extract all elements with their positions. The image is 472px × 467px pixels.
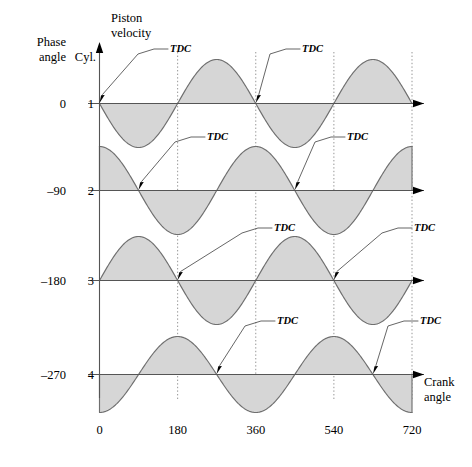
tdc-arrow-head — [256, 95, 261, 103]
tdc-leader-line — [181, 228, 272, 272]
tdc-arrow-head — [295, 182, 300, 190]
tdc-label: TDC — [347, 131, 369, 142]
tdc-arrow-head — [217, 366, 222, 374]
tdc-label: TDC — [170, 43, 192, 54]
cylinder-number-4: 4 — [88, 368, 95, 382]
tdc-arrow-head — [334, 272, 339, 280]
tdc-label: TDC — [302, 43, 324, 54]
x-tick-labels: 0180360540720 — [96, 423, 421, 437]
x-tick-label-180: 180 — [168, 423, 187, 437]
tdc-arrow-head — [139, 182, 144, 190]
cylinder-number-2: 2 — [88, 184, 94, 198]
tdc-arrow-head — [373, 366, 378, 374]
tdc-leader-line — [103, 49, 169, 95]
x-axis-title-line2: angle — [424, 390, 452, 404]
tdc-label: TDC — [420, 315, 442, 326]
phase-angle-header-line2: angle — [39, 50, 67, 64]
x-axis-arrow — [413, 371, 424, 378]
baseline-arrow-cyl-1 — [413, 100, 424, 107]
tdc-arrow-head — [178, 272, 183, 280]
phase-angle-value-cyl-4: –270 — [40, 368, 66, 382]
phase-angle-header-line1: Phase — [37, 35, 67, 49]
cylinder-number-3: 3 — [88, 274, 94, 288]
row-labels: 01–902–1803–2704 — [40, 97, 95, 382]
piston-velocity-diagram: Piston velocity Phase angle Cyl. Crank a… — [0, 0, 472, 467]
phase-angle-value-cyl-2: –90 — [46, 184, 66, 198]
x-tick-label-720: 720 — [403, 423, 422, 437]
tdc-leader-line — [259, 49, 300, 95]
y-axis-title-line1: Piston — [111, 11, 143, 25]
phase-angle-value-cyl-3: –180 — [40, 274, 66, 288]
baseline-arrow-cyl-2 — [413, 187, 424, 194]
tdc-leader-line — [337, 228, 412, 272]
y-axis-title-line2: velocity — [111, 26, 152, 40]
tdc-label: TDC — [274, 222, 296, 233]
tdc-arrow-head — [100, 95, 105, 103]
x-tick-label-540: 540 — [325, 423, 344, 437]
tdc-leader-line — [220, 321, 275, 366]
tdc-label: TDC — [414, 222, 436, 233]
tdc-leader-line — [142, 137, 205, 182]
cylinder-header: Cyl. — [75, 50, 96, 64]
tdc-label: TDC — [277, 315, 299, 326]
x-tick-label-360: 360 — [246, 423, 265, 437]
x-axis-title-line1: Crank — [424, 375, 455, 389]
cylinder-number-1: 1 — [88, 97, 94, 111]
x-tick-label-0: 0 — [96, 423, 102, 437]
phase-angle-value-cyl-1: 0 — [60, 97, 66, 111]
tdc-label: TDC — [207, 131, 229, 142]
baseline-arrow-cyl-3 — [413, 277, 424, 284]
